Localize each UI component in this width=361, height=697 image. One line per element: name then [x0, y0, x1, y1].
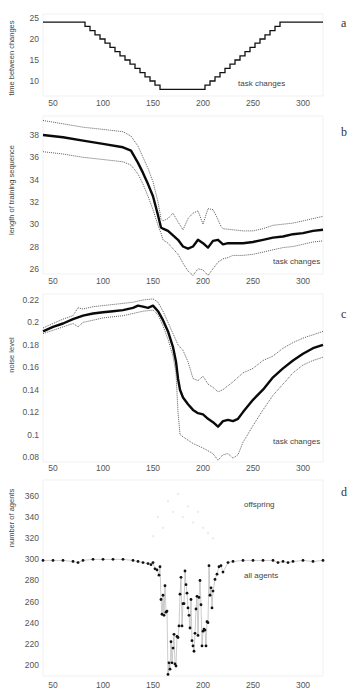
y-tick-label: 320 — [25, 533, 39, 543]
offspring-point — [172, 511, 174, 513]
data-point — [159, 565, 162, 568]
x-tick-label: 100 — [96, 276, 110, 286]
y-tick-label: 260 — [25, 597, 39, 607]
data-point — [242, 559, 245, 562]
data-point — [183, 602, 186, 605]
data-point — [197, 634, 200, 637]
x-tick-label: 50 — [48, 98, 58, 108]
panel-c-label: c — [341, 307, 346, 321]
offspring-point — [167, 500, 169, 502]
panel-a-annotation: task changes — [238, 79, 285, 88]
data-point — [216, 573, 219, 576]
panel-d: 200220240260280300320340360 501001502002… — [7, 480, 347, 690]
data-point — [227, 561, 230, 564]
data-point — [164, 584, 167, 587]
x-tick-label: 200 — [196, 276, 210, 286]
data-point — [162, 594, 165, 597]
offspring-point — [157, 516, 159, 518]
panel-b-annotation: task changes — [273, 257, 320, 266]
x-tick-label: 300 — [296, 680, 310, 690]
data-point — [184, 570, 187, 573]
x-tick-label: 300 — [296, 276, 310, 286]
x-tick-label: 200 — [196, 680, 210, 690]
data-point — [214, 578, 217, 581]
y-tick-label: 28 — [30, 242, 40, 252]
data-point — [178, 624, 181, 627]
data-point — [72, 560, 75, 563]
data-point — [232, 560, 235, 563]
panel-b-frame — [43, 116, 323, 274]
panel-a-label: a — [341, 16, 347, 30]
y-tick-label: 15 — [30, 55, 40, 65]
data-point — [204, 629, 207, 632]
data-point — [187, 607, 190, 610]
data-point — [195, 608, 198, 611]
x-tick-label: 250 — [246, 276, 260, 286]
data-point — [147, 562, 150, 565]
data-point — [198, 596, 201, 599]
data-point — [193, 650, 196, 653]
data-point — [185, 583, 188, 586]
data-point — [152, 561, 155, 564]
data-point — [102, 558, 105, 561]
data-point — [156, 569, 159, 572]
data-point — [173, 633, 176, 636]
x-tick-label: 100 — [96, 463, 110, 473]
data-point — [322, 559, 325, 562]
data-point — [287, 561, 290, 564]
data-point — [191, 639, 194, 642]
data-point — [252, 559, 255, 562]
panel-c-xticks: 50100150200250300 — [48, 463, 310, 473]
data-point — [169, 668, 172, 671]
data-point — [160, 598, 163, 601]
panel-b-series — [43, 121, 323, 276]
data-point — [199, 579, 202, 582]
data-point — [209, 594, 212, 597]
data-point — [170, 640, 173, 643]
x-tick-label: 200 — [196, 463, 210, 473]
data-point — [292, 560, 295, 563]
panel-d-annotation-offspring: offspring — [244, 500, 275, 509]
panel-d-ylabel: number of agents — [7, 489, 16, 548]
y-tick-label: 220 — [25, 639, 39, 649]
y-tick-label: 0.14 — [22, 385, 39, 395]
offspring-point — [192, 521, 194, 523]
panel-b: 26283032343638 50100150200250300 length … — [7, 116, 347, 286]
x-tick-label: 250 — [246, 680, 260, 690]
x-tick-label: 50 — [48, 463, 58, 473]
data-point — [175, 665, 178, 668]
data-point — [177, 636, 180, 639]
data-point — [172, 647, 175, 650]
data-point — [207, 621, 210, 624]
y-tick-label: 360 — [25, 491, 39, 501]
y-tick-label: 26 — [30, 264, 40, 274]
y-tick-label: 0.12 — [22, 407, 39, 417]
data-point — [52, 559, 55, 562]
data-point — [212, 590, 215, 593]
x-tick-label: 250 — [246, 98, 260, 108]
offspring-point — [212, 537, 214, 539]
data-point — [302, 559, 305, 562]
x-tick-label: 50 — [48, 680, 58, 690]
data-point — [282, 560, 285, 563]
panel-b-xticks: 50100150200250300 — [48, 276, 310, 286]
data-point — [222, 571, 225, 574]
panel-d-frame — [43, 480, 323, 676]
y-tick-label: 0.08 — [22, 452, 39, 462]
data-point — [312, 560, 315, 563]
offspring-point — [207, 532, 209, 534]
data-point — [180, 576, 183, 579]
data-point — [167, 673, 170, 676]
offspring-point — [187, 505, 189, 507]
y-tick-label: 36 — [30, 152, 40, 162]
y-tick-label: 0.22 — [22, 295, 39, 305]
panel-a: 10152025 50100150200250300 time between … — [7, 13, 347, 108]
y-tick-label: 10 — [30, 76, 40, 86]
data-point — [158, 574, 161, 577]
data-point — [82, 559, 85, 562]
x-tick-label: 100 — [96, 98, 110, 108]
data-point — [189, 627, 192, 630]
data-point — [208, 564, 211, 567]
figure: 10152025 50100150200250300 time between … — [0, 0, 361, 697]
y-tick-label: 34 — [30, 175, 40, 185]
